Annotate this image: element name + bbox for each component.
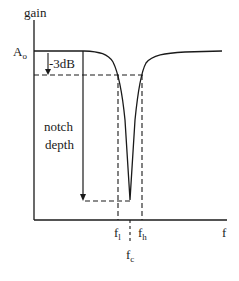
y-axis-label: gain — [24, 5, 47, 20]
fh-label: fh — [138, 225, 147, 242]
notch-depth-arrow-icon — [80, 194, 86, 201]
notch-depth-label-line1: notch — [44, 119, 73, 134]
fc-subscript: c — [130, 254, 134, 264]
fh-subscript: h — [142, 232, 147, 242]
fl-subscript: l — [118, 232, 121, 242]
gain-level-subscript: o — [22, 51, 27, 61]
notch-depth-label-line2: depth — [45, 137, 74, 152]
fc-label: fc — [126, 247, 134, 264]
gain-level-label: Ao — [13, 44, 27, 61]
x-axis-label: f — [222, 225, 227, 240]
minus-3db-label: -3dB — [49, 56, 75, 71]
fl-label: fl — [114, 225, 121, 242]
notch-filter-diagram: gain Ao -3dB notch depth fl fh fc f — [0, 0, 239, 281]
